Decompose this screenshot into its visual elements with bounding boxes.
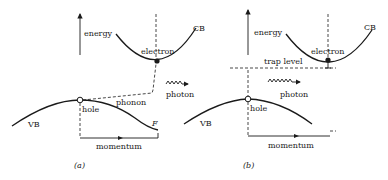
momentum-arrow-icon <box>294 134 299 138</box>
photon-label: photon <box>166 90 194 99</box>
phonon-label: phonon <box>116 98 146 107</box>
photon-wave-arrow-icon <box>268 79 300 82</box>
vb-label: VB <box>27 120 40 129</box>
caption-b: (b) <box>243 161 254 170</box>
hole-label: hole <box>82 105 100 114</box>
momentum-arrow-icon <box>118 136 123 140</box>
photon-wave-arrow-icon <box>166 81 188 84</box>
cb-label: CB <box>364 23 376 32</box>
photon-label: photon <box>280 90 308 99</box>
electron-label: electron <box>141 47 175 56</box>
electron-dot-icon <box>154 58 159 63</box>
energy-label: energy <box>84 29 113 38</box>
momentum-label: momentum <box>268 141 314 150</box>
trap-level-label: trap level <box>264 57 303 66</box>
momentum-label: momentum <box>96 142 142 151</box>
phonon-transition-path <box>83 64 156 100</box>
hole-circle-icon <box>245 96 251 102</box>
panel-a: energy CB electron VB F hole phonon phot… <box>12 14 205 170</box>
hole-circle-icon <box>77 97 83 103</box>
f-label: F <box>151 119 158 128</box>
panel-b: energy CB electron trap level photon VB … <box>184 10 376 170</box>
energy-label: energy <box>254 28 283 37</box>
cb-label: CB <box>193 24 205 33</box>
vb-label: VB <box>199 119 212 128</box>
hole-label: hole <box>250 104 268 113</box>
caption-a: (a) <box>74 161 85 170</box>
band-diagram-figure: energy CB electron VB F hole phonon phot… <box>0 0 388 180</box>
electron-dot-icon <box>325 57 330 62</box>
